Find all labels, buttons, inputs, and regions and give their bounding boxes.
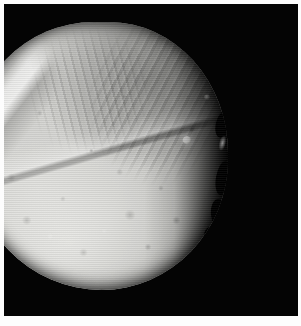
moon-disc <box>4 22 228 290</box>
sky-background <box>4 4 298 316</box>
photograph-frame <box>0 0 301 326</box>
